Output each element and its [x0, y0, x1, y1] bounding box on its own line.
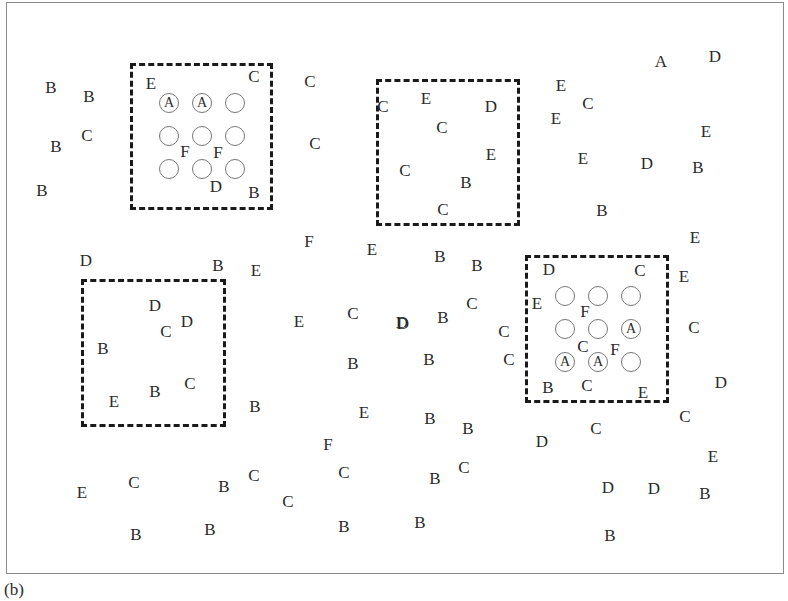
letter-c: C — [160, 323, 171, 340]
letter-c: C — [581, 377, 592, 394]
labeled-circle: A — [192, 93, 212, 113]
empty-circle — [555, 286, 575, 306]
letter-d: D — [396, 314, 408, 331]
letter-e: E — [679, 268, 689, 285]
labeled-circle: A — [159, 93, 179, 113]
letter-e: E — [532, 295, 542, 312]
empty-circle — [225, 159, 245, 179]
letter-c: C — [436, 119, 447, 136]
empty-circle — [159, 126, 179, 146]
letter-b: B — [97, 340, 108, 357]
letter-e: E — [556, 77, 566, 94]
letter-a: A — [655, 53, 667, 70]
letter-b: B — [347, 355, 358, 372]
empty-circle — [225, 93, 245, 113]
empty-circle — [159, 159, 179, 179]
letter-c: C — [338, 464, 349, 481]
letter-c: C — [577, 338, 588, 355]
letter-c: C — [309, 135, 320, 152]
letter-b: B — [596, 202, 607, 219]
letter-c: C — [582, 95, 593, 112]
letter-b: B — [424, 410, 435, 427]
labeled-circle: A — [588, 352, 608, 372]
letter-f: F — [610, 341, 619, 358]
letter-b: B — [212, 257, 223, 274]
letter-b: B — [437, 309, 448, 326]
letter-c: C — [498, 323, 509, 340]
letter-f: F — [180, 143, 189, 160]
letter-b: B — [50, 138, 61, 155]
letter-d: D — [210, 178, 222, 195]
letter-e: E — [359, 404, 369, 421]
letter-b: B — [699, 485, 710, 502]
letter-b: B — [204, 521, 215, 538]
letter-b: B — [130, 526, 141, 543]
letter-c: C — [248, 68, 259, 85]
letter-b: B — [45, 79, 56, 96]
letter-c: C — [81, 127, 92, 144]
letter-d: D — [709, 48, 721, 65]
letter-c: C — [458, 459, 469, 476]
letter-f: F — [580, 303, 589, 320]
letter-e: E — [251, 262, 261, 279]
letter-c: C — [184, 375, 195, 392]
letter-d: D — [80, 252, 92, 269]
letter-b: B — [36, 182, 47, 199]
letter-e: E — [578, 150, 588, 167]
letter-b: B — [434, 248, 445, 265]
letter-c: C — [503, 351, 514, 368]
letter-c: C — [377, 98, 388, 115]
letter-d: D — [181, 313, 193, 330]
letter-b: B — [604, 527, 615, 544]
letter-e: E — [367, 241, 377, 258]
letter-f: F — [304, 233, 313, 250]
empty-circle — [555, 319, 575, 339]
letter-d: D — [602, 479, 614, 496]
letter-e: E — [701, 123, 711, 140]
letter-c: C — [679, 408, 690, 425]
letter-d: D — [648, 480, 660, 497]
empty-circle — [621, 286, 641, 306]
letter-c: C — [128, 474, 139, 491]
letter-c: C — [347, 305, 358, 322]
empty-circle — [225, 126, 245, 146]
letter-b: B — [471, 257, 482, 274]
figure-caption: (b) — [4, 580, 24, 600]
letter-c: C — [248, 467, 259, 484]
letter-b: B — [218, 478, 229, 495]
letter-e: E — [109, 393, 119, 410]
letter-e: E — [638, 384, 648, 401]
letter-e: E — [551, 110, 561, 127]
letter-c: C — [634, 262, 645, 279]
letter-d: D — [641, 155, 653, 172]
letter-b: B — [414, 514, 425, 531]
letter-d: D — [485, 98, 497, 115]
labeled-circle: A — [555, 352, 575, 372]
letter-c: C — [437, 201, 448, 218]
letter-b: B — [248, 184, 259, 201]
letter-c: C — [466, 295, 477, 312]
letter-c: C — [282, 493, 293, 510]
letter-f: F — [213, 144, 222, 161]
letter-e: E — [77, 484, 87, 501]
letter-e: E — [294, 313, 304, 330]
letter-b: B — [423, 351, 434, 368]
empty-circle — [192, 126, 212, 146]
letter-e: E — [421, 90, 431, 107]
letter-b: B — [149, 383, 160, 400]
letter-f: F — [323, 436, 332, 453]
letter-e: E — [690, 229, 700, 246]
letter-d: D — [543, 261, 555, 278]
letter-e: E — [146, 75, 156, 92]
letter-e: E — [486, 146, 496, 163]
letter-e: E — [708, 448, 718, 465]
letter-b: B — [429, 470, 440, 487]
letter-c: C — [688, 319, 699, 336]
empty-circle — [588, 286, 608, 306]
letter-b: B — [338, 518, 349, 535]
letter-d: D — [149, 297, 161, 314]
letter-b: B — [542, 379, 553, 396]
letter-b: B — [460, 174, 471, 191]
letter-b: B — [249, 398, 260, 415]
letter-c: C — [399, 162, 410, 179]
